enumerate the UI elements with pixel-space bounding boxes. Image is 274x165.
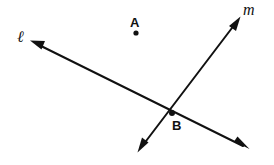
line-l-upper-left-arrowhead xyxy=(30,41,45,50)
line-m-segment xyxy=(143,24,235,145)
line-l-segment xyxy=(37,44,243,146)
point-b-dot xyxy=(169,110,175,116)
line-l-label: ℓ xyxy=(17,29,24,45)
geometry-diagram: A B ℓ m xyxy=(0,0,274,165)
line-m-group xyxy=(138,17,241,153)
line-m-label: m xyxy=(243,2,255,18)
point-a-dot xyxy=(133,30,138,35)
point-a-label: A xyxy=(130,16,139,29)
line-l-group xyxy=(30,41,250,149)
point-b-label: B xyxy=(172,119,181,132)
